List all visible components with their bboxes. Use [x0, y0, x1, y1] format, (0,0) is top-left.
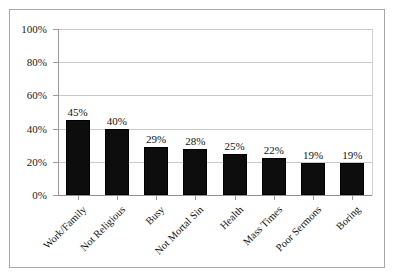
- y-tick-label: 60%: [0, 90, 47, 101]
- gridline-60pct: [58, 95, 372, 96]
- y-tick-mark: [53, 29, 58, 30]
- bar: [301, 163, 325, 195]
- bar: [340, 163, 364, 195]
- bar: [144, 147, 168, 195]
- y-tick-mark: [53, 129, 58, 130]
- x-tick-mark: [313, 196, 314, 200]
- bar: [262, 158, 286, 195]
- y-tick-label: 0%: [0, 190, 47, 201]
- x-tick-mark: [235, 196, 236, 200]
- bar: [223, 154, 247, 196]
- bar: [105, 129, 129, 195]
- y-tick-mark: [53, 95, 58, 96]
- y-tick-mark: [53, 162, 58, 163]
- x-tick-mark: [156, 196, 157, 200]
- x-tick-mark: [195, 196, 196, 200]
- x-tick-mark: [274, 196, 275, 200]
- gridline-100pct: [58, 29, 372, 30]
- x-tick-mark: [117, 196, 118, 200]
- x-category-label: Work/Family: [0, 205, 88, 277]
- y-tick-mark: [53, 62, 58, 63]
- y-tick-label: 100%: [0, 24, 47, 35]
- x-axis-line: [58, 195, 372, 196]
- y-tick-label: 40%: [0, 123, 47, 134]
- y-tick-label: 80%: [0, 57, 47, 68]
- plot-right-border: [372, 29, 373, 196]
- gridline-80pct: [58, 62, 372, 63]
- y-tick-mark: [53, 195, 58, 196]
- x-tick-mark: [352, 196, 353, 200]
- bar-chart-figure: 0%20%40%60%80%100% 45%40%29%28%25%22%19%…: [9, 9, 385, 268]
- plot-area: [58, 29, 372, 195]
- bar-value-label: 19%: [327, 150, 377, 161]
- bar-value-label: 40%: [92, 116, 142, 127]
- x-tick-mark: [78, 196, 79, 200]
- y-tick-label: 20%: [0, 156, 47, 167]
- bar: [66, 120, 90, 195]
- bar: [183, 149, 207, 195]
